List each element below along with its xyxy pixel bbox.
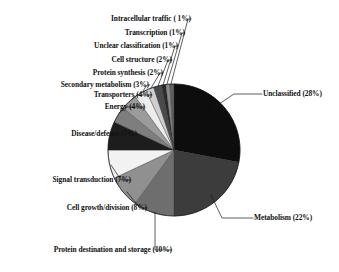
pie-label-metabolism: Metabolism (22%) xyxy=(254,213,312,222)
pie-label-transcription: Transcription (1%) xyxy=(125,28,185,37)
pie-label-secondary-metabolism: Secondary metabolism (3%) xyxy=(61,80,149,89)
pie-label-energy: Energy (4%) xyxy=(105,102,145,111)
pie-label-signal-transduction: Signal transduction (7%) xyxy=(53,175,131,184)
pie-label-cell-structure: Cell structure (2%) xyxy=(112,55,173,64)
pie-label-unclear-classification: Unclear classification (1%) xyxy=(94,41,178,50)
pie-label-disease-defense: Disease/defense (7%) xyxy=(71,129,137,138)
pie-slice-unclassified[interactable] xyxy=(174,84,240,162)
pie-label-protein-synthesis: Protein synthesis (2%) xyxy=(93,68,163,77)
pie-label-unclassified: Unclassified (28%) xyxy=(263,89,322,98)
pie-label-protein-destination-and-storage: Protein destination and storage (10%) xyxy=(54,245,172,254)
pie-label-cell-growth-division: Cell growth/division (8%) xyxy=(67,203,147,212)
pie-label-transporters: Transporters (4%) xyxy=(94,90,152,99)
pie-label-intracellular-traffic: Intracellular traffic ( 1%) xyxy=(111,14,191,23)
pie-chart-figure: Unclassified (28%) Metabolism (22%) Prot… xyxy=(0,0,339,272)
